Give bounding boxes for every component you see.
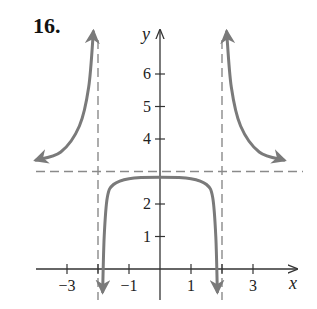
- curve-left-branch: [36, 32, 93, 160]
- asymptotes: [36, 40, 303, 300]
- axes: xy: [36, 24, 297, 300]
- x-tick-label: −1: [120, 277, 137, 294]
- y-tick-label: 5: [143, 98, 151, 115]
- x-tick-label: 1: [187, 277, 195, 294]
- y-tick-label: 1: [143, 228, 151, 245]
- y-axis-label: y: [140, 24, 150, 44]
- curve-right-branch: [227, 32, 284, 160]
- graph: xy −3−11312456: [0, 0, 317, 309]
- y-tick-label: 2: [143, 195, 151, 212]
- y-tick-label: 6: [143, 65, 151, 82]
- x-axis-label: x: [288, 273, 297, 293]
- y-tick-label: 4: [143, 130, 151, 147]
- ticks: −3−11312456: [58, 65, 257, 294]
- x-tick-label: −3: [58, 277, 75, 294]
- x-tick-label: 3: [249, 277, 257, 294]
